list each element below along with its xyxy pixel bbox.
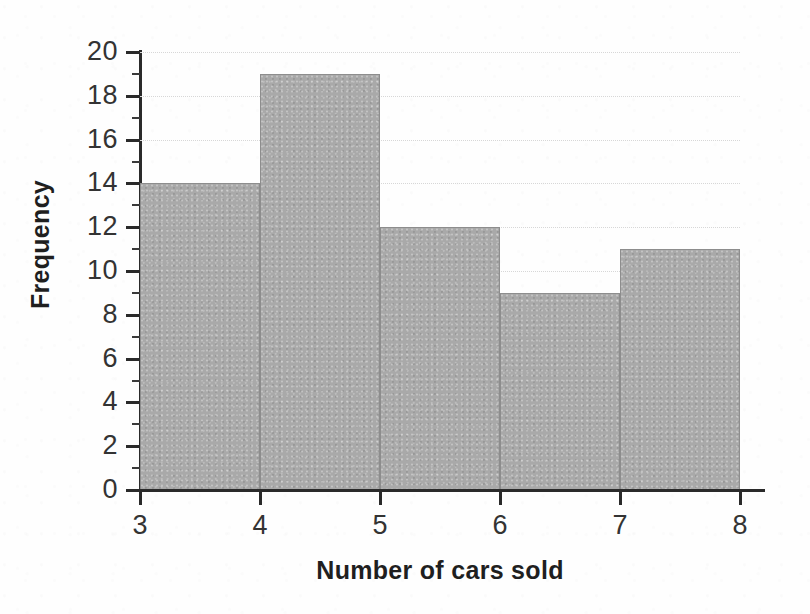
x-tick-label-8: 8 — [710, 512, 770, 539]
y-minor-tick-1 — [132, 467, 140, 469]
y-tick-8 — [126, 314, 140, 317]
y-tick-label-8: 8 — [18, 301, 118, 328]
bar-6-to-7 — [500, 293, 620, 490]
histogram-figure: Frequency 02468101214161820 345678 Numbe… — [0, 0, 810, 614]
y-minor-tick-17 — [132, 117, 140, 119]
bar-4-to-5 — [260, 74, 380, 490]
y-tick-label-18: 18 — [18, 82, 118, 109]
y-minor-tick-15 — [132, 161, 140, 163]
y-minor-tick-13 — [132, 204, 140, 206]
y-tick-label-4: 4 — [18, 388, 118, 415]
x-tick-label-7: 7 — [590, 512, 650, 539]
x-axis-title: Number of cars sold — [140, 556, 740, 585]
y-minor-tick-7 — [132, 336, 140, 338]
gridline — [140, 52, 740, 53]
y-tick-label-20: 20 — [18, 38, 118, 65]
y-tick-14 — [126, 182, 140, 185]
y-minor-tick-11 — [132, 248, 140, 250]
plot-area — [140, 52, 740, 490]
y-tick-20 — [126, 51, 140, 54]
y-tick-label-2: 2 — [18, 432, 118, 459]
y-tick-label-10: 10 — [18, 257, 118, 284]
y-tick-label-16: 16 — [18, 126, 118, 153]
bar-7-to-8 — [620, 249, 740, 490]
gridline — [140, 140, 740, 141]
x-tick-label-3: 3 — [110, 512, 170, 539]
x-tick-8 — [739, 491, 742, 505]
y-tick-12 — [126, 226, 140, 229]
x-tick-label-6: 6 — [470, 512, 530, 539]
x-tick-3 — [139, 491, 142, 505]
y-tick-4 — [126, 401, 140, 404]
y-tick-0 — [126, 489, 140, 492]
bar-5-to-6 — [380, 227, 500, 490]
x-tick-5 — [379, 491, 382, 505]
y-tick-label-6: 6 — [18, 345, 118, 372]
y-tick-18 — [126, 95, 140, 98]
y-minor-tick-9 — [132, 292, 140, 294]
gridline — [140, 96, 740, 97]
y-tick-10 — [126, 270, 140, 273]
y-tick-6 — [126, 358, 140, 361]
bar-3-to-4 — [140, 183, 260, 490]
x-axis-spine — [140, 489, 765, 492]
x-tick-7 — [619, 491, 622, 505]
y-tick-label-0: 0 — [18, 476, 118, 503]
y-tick-label-12: 12 — [18, 213, 118, 240]
y-tick-16 — [126, 139, 140, 142]
y-minor-tick-5 — [132, 380, 140, 382]
x-tick-label-4: 4 — [230, 512, 290, 539]
y-minor-tick-19 — [132, 73, 140, 75]
y-minor-tick-3 — [132, 423, 140, 425]
x-tick-6 — [499, 491, 502, 505]
x-tick-label-5: 5 — [350, 512, 410, 539]
y-tick-2 — [126, 445, 140, 448]
y-tick-label-14: 14 — [18, 169, 118, 196]
x-tick-4 — [259, 491, 262, 505]
